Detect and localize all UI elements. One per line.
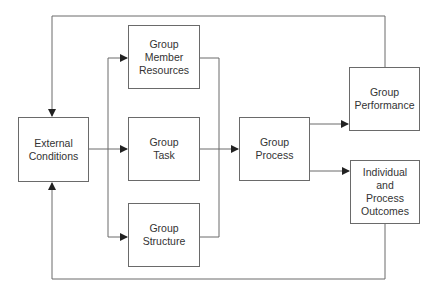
- node-label: Group Member Resources: [139, 38, 189, 77]
- node-label: Individual and Process Outcomes: [361, 166, 409, 218]
- node-label: Group Process: [256, 136, 294, 162]
- node-label: Group Structure: [143, 222, 186, 248]
- node-group-member-resources: Group Member Resources: [128, 25, 200, 89]
- node-group-performance: Group Performance: [349, 67, 420, 131]
- node-group-process: Group Process: [239, 117, 310, 181]
- node-group-task: Group Task: [128, 117, 200, 181]
- node-individual-process-outcomes: Individual and Process Outcomes: [350, 160, 420, 224]
- node-external-conditions: External Conditions: [18, 117, 89, 182]
- node-label: External Conditions: [29, 137, 79, 163]
- node-label: Group Performance: [354, 86, 414, 112]
- node-label: Group Task: [149, 136, 178, 162]
- node-group-structure: Group Structure: [128, 203, 200, 267]
